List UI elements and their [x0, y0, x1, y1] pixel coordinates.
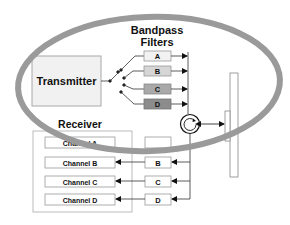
svg-text:D: D: [155, 196, 161, 205]
svg-text:B: B: [155, 159, 161, 168]
channel-b: Channel B: [45, 157, 115, 168]
svg-text:D: D: [155, 100, 161, 109]
diagram-canvas: Transmitter Bandpass Filters A B C D: [0, 0, 290, 225]
channel-d: Channel D: [45, 194, 115, 205]
svg-text:Channel D: Channel D: [63, 197, 98, 204]
transmitter-block: Transmitter: [32, 56, 101, 106]
tx-filter-a: A: [144, 51, 171, 61]
switch: [101, 56, 144, 104]
rx-filter-b: B: [145, 157, 171, 168]
tx-filter-d: D: [144, 99, 171, 109]
svg-text:B: B: [155, 67, 161, 76]
transmitter-label: Transmitter: [37, 75, 98, 87]
svg-text:A: A: [155, 52, 161, 61]
tx-filter-c: C: [144, 84, 171, 94]
rx-filter-a: [145, 137, 171, 148]
tx-filter-b: B: [144, 66, 171, 76]
svg-text:C: C: [155, 85, 161, 94]
svg-text:Channel B: Channel B: [63, 160, 98, 167]
svg-text:C: C: [155, 178, 161, 187]
rx-filter-d: D: [145, 194, 171, 205]
channel-c: Channel C: [45, 176, 115, 187]
circulator-icon: [181, 115, 200, 134]
filters-title-line2: Filters: [140, 36, 173, 48]
svg-text:Channel C: Channel C: [63, 179, 98, 186]
receiver-label: Receiver: [58, 118, 102, 130]
filters-title-line1: Bandpass: [131, 24, 184, 36]
rx-filter-c: C: [145, 176, 171, 187]
tx-bus: [171, 52, 188, 114]
antenna-icon: [225, 73, 238, 177]
